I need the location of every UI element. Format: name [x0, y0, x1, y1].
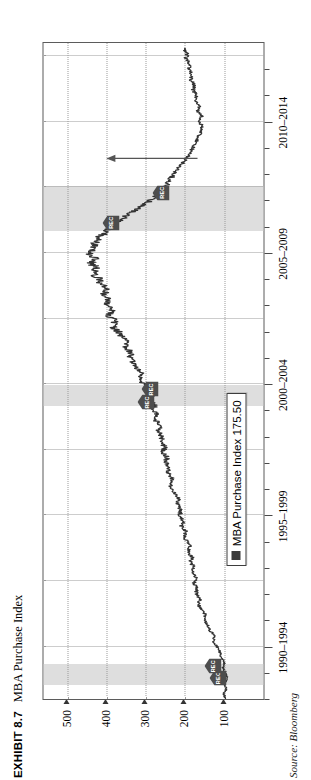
x-axis-minor-tick	[264, 489, 269, 490]
x-axis-minor-tick	[264, 542, 269, 543]
x-axis-minor-tick	[264, 437, 269, 438]
y-axis: 500400300200100	[42, 700, 264, 780]
x-axis-tick-label: 1990–1994	[276, 622, 288, 674]
x-axis-tick	[264, 122, 272, 123]
exhibit-label: EXHIBIT 8.7	[11, 711, 23, 778]
x-axis-minor-tick	[264, 148, 269, 149]
recession-marker[interactable]: REC	[102, 215, 119, 230]
x-axis-minor-tick	[264, 463, 269, 464]
y-axis-tick-label: 100	[217, 710, 229, 727]
x-axis-minor-tick	[264, 358, 269, 359]
plot-area: RECRECRECRECRECREC	[42, 42, 264, 700]
y-axis-tick-label: 200	[177, 710, 189, 727]
x-axis-minor-tick	[264, 227, 269, 228]
x-axis-tick	[264, 253, 272, 254]
figure-rotator: EXHIBIT 8.7MBA Purchase Index 5004003002…	[0, 0, 311, 780]
x-axis-tick-label: 1995–1999	[276, 490, 288, 542]
chart-legend: MBA Purchase Index 175.50	[226, 393, 246, 566]
x-axis-minor-tick	[264, 200, 269, 201]
x-axis-minor-tick	[264, 620, 269, 621]
x-axis: 1990–19941995–19992000–20042005–20092010…	[264, 42, 310, 700]
y-axis-tick-label: 400	[99, 710, 111, 727]
x-axis-tick	[264, 515, 272, 516]
source-note-text: Source: Bloomberg	[286, 693, 298, 778]
x-axis-tick-label: 2010–2014	[276, 97, 288, 149]
x-axis-minor-tick	[264, 174, 269, 175]
recession-marker[interactable]: REC	[137, 395, 154, 410]
recession-marker-label: REC	[152, 185, 169, 200]
y-axis-tick-label: 500	[60, 710, 72, 727]
recession-marker-label: REC	[102, 215, 119, 230]
x-axis-minor-tick	[264, 699, 269, 700]
exhibit-figure: EXHIBIT 8.7MBA Purchase Index 5004003002…	[0, 0, 311, 780]
x-axis-minor-tick	[264, 279, 269, 280]
source-note: Source: Bloomberg	[286, 693, 298, 778]
x-axis-tick-label: 2005–2009	[276, 228, 288, 280]
x-axis-minor-tick	[264, 594, 269, 595]
legend-swatch-mba-purchase-index	[231, 551, 240, 560]
recession-marker-label: REC	[204, 659, 221, 674]
recession-marker[interactable]: REC	[204, 659, 221, 674]
x-axis-tick	[264, 647, 272, 648]
x-axis-tick	[264, 384, 272, 385]
y-axis-tick-label: 300	[138, 710, 150, 727]
exhibit-title: MBA Purchase Index	[10, 595, 24, 703]
x-axis-minor-tick	[264, 69, 269, 70]
x-axis-minor-tick	[264, 332, 269, 333]
recession-marker-label: REC	[141, 382, 158, 397]
legend-label-mba-purchase-index: MBA Purchase Index 175.50	[230, 400, 242, 546]
x-axis-minor-tick	[264, 568, 269, 569]
x-axis-tick-label: 2000–2004	[276, 359, 288, 411]
exhibit-heading: EXHIBIT 8.7MBA Purchase Index	[10, 595, 25, 778]
recession-marker-label: REC	[137, 395, 154, 410]
annotation-layer	[43, 43, 263, 699]
recession-marker[interactable]: REC	[141, 382, 158, 397]
x-axis-minor-tick	[264, 95, 269, 96]
plot-wrap: RECRECRECRECRECREC MBA Purchase Index 17…	[42, 42, 264, 700]
x-axis-minor-tick	[264, 410, 269, 411]
x-axis-minor-tick	[264, 673, 269, 674]
trend-arrow-annotation	[106, 155, 197, 162]
x-axis-minor-tick	[264, 305, 269, 306]
recession-marker[interactable]: REC	[152, 185, 169, 200]
